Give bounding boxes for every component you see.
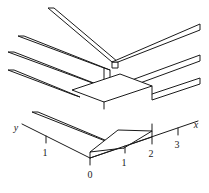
middle-slab-lower-band — [8, 52, 104, 87]
x-axis-tick-2: 2 — [149, 137, 154, 159]
x-tick-label-2: 2 — [149, 148, 154, 159]
slab-ground — [32, 112, 152, 158]
x-axis-label: x — [193, 119, 199, 130]
step-surface-figure: 0 1 2 3 x 1 y — [0, 0, 209, 193]
y-axis-tick-1: 1 — [43, 136, 48, 158]
ground-tread-plate — [90, 130, 152, 152]
x-tick-label-0: 0 — [88, 169, 93, 180]
upper-slab-right-wing — [112, 24, 200, 62]
y-tick-label-1: 1 — [43, 147, 48, 158]
middle-slab-top-face — [18, 36, 110, 70]
y-axis-label: y — [13, 122, 19, 133]
y-axis: 1 y — [13, 122, 90, 158]
x-axis-tick-3: 3 — [175, 128, 180, 150]
step-surface-drawing: 0 1 2 3 x 1 y — [0, 0, 209, 193]
lower-slab-right-wing — [152, 78, 200, 100]
x-axis-tick-1: 1 — [122, 146, 127, 168]
slab-upper-back — [48, 8, 200, 68]
x-tick-label-3: 3 — [175, 139, 180, 150]
x-axis-tick-0: 0 — [88, 158, 93, 180]
upper-slab-riser — [112, 62, 118, 68]
upper-slab-top-face — [48, 8, 118, 62]
x-tick-label-1: 1 — [122, 157, 127, 168]
